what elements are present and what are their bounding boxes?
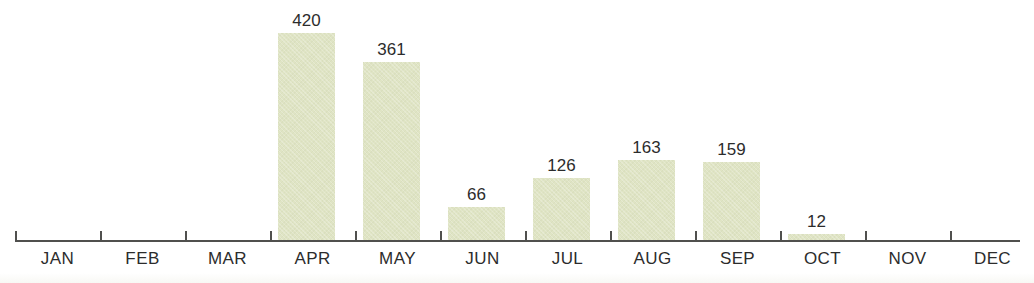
- bar-chart: 420 361 66 126 163 159 12 JAN FEB MAR AP…: [0, 0, 1034, 283]
- x-axis-tick-5: [440, 231, 442, 240]
- bar-may[interactable]: [363, 62, 420, 240]
- x-axis-label-jan: JAN: [15, 249, 100, 269]
- bar-aug[interactable]: [618, 160, 675, 240]
- x-axis-label-feb: FEB: [100, 249, 185, 269]
- x-axis-tick-3: [270, 231, 272, 240]
- x-axis-tick-1: [100, 231, 102, 240]
- x-axis-label-nov: NOV: [865, 249, 950, 269]
- value-label-oct: 12: [788, 213, 845, 231]
- x-axis-tick-6: [525, 231, 527, 240]
- x-axis-tick-4: [355, 231, 357, 240]
- x-axis-tick-10: [865, 231, 867, 240]
- value-label-jul: 126: [533, 157, 590, 175]
- x-axis-label-may: MAY: [355, 249, 440, 269]
- x-axis-tick-0: [15, 231, 17, 240]
- value-label-sep: 159: [703, 141, 760, 159]
- bar-sep[interactable]: [703, 162, 760, 240]
- x-axis-tick-9: [780, 231, 782, 240]
- value-label-apr: 420: [278, 12, 335, 30]
- x-axis-label-aug: AUG: [610, 249, 695, 269]
- bar-jun[interactable]: [448, 207, 505, 240]
- x-axis-tick-8: [695, 231, 697, 240]
- x-axis-line: [15, 240, 1020, 242]
- scan-artifact: [0, 273, 1034, 283]
- x-axis-label-jun: JUN: [440, 249, 525, 269]
- x-axis-tick-2: [185, 231, 187, 240]
- x-axis-label-mar: MAR: [185, 249, 270, 269]
- plot-area: 420 361 66 126 163 159 12 JAN FEB MAR AP…: [0, 0, 1034, 283]
- bar-jul[interactable]: [533, 178, 590, 240]
- x-axis-tick-7: [610, 231, 612, 240]
- x-axis-label-dec: DEC: [950, 249, 1034, 269]
- x-axis-label-jul: JUL: [525, 249, 610, 269]
- bar-apr[interactable]: [278, 33, 335, 240]
- x-axis-label-sep: SEP: [695, 249, 780, 269]
- x-axis-label-apr: APR: [270, 249, 355, 269]
- value-label-aug: 163: [618, 139, 675, 157]
- x-axis-label-oct: OCT: [780, 249, 865, 269]
- value-label-may: 361: [363, 41, 420, 59]
- value-label-jun: 66: [448, 186, 505, 204]
- x-axis-tick-11: [950, 231, 952, 240]
